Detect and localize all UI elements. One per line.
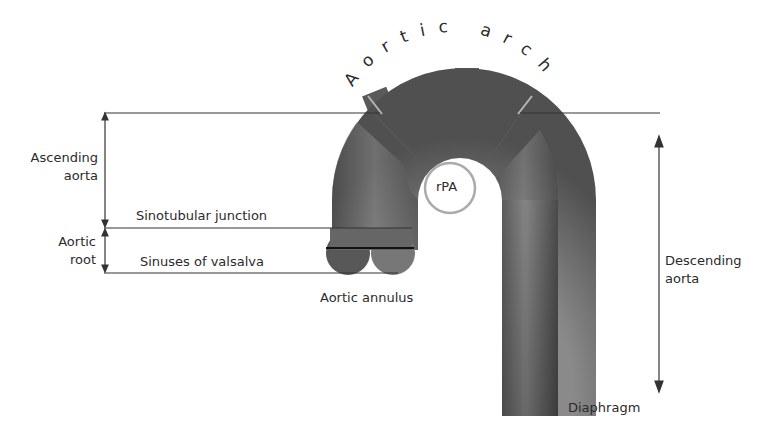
sinuses-of-valsalva-shape — [326, 228, 415, 275]
descending-aorta-arrow — [655, 136, 663, 392]
aorta-diagram: Aortic arch — [0, 0, 766, 438]
label-aortic-root: Aortic root — [20, 233, 96, 269]
descending-line1: Descending — [665, 252, 742, 270]
ascending-line2: aorta — [20, 167, 98, 185]
descending-line2: aorta — [665, 270, 742, 288]
ascending-aorta-arrow — [102, 113, 108, 227]
label-sinotubular-junction: Sinotubular junction — [136, 207, 267, 225]
aortic-root-arrow — [102, 229, 108, 272]
label-aortic-annulus: Aortic annulus — [320, 289, 413, 307]
label-diaphragm: Diaphragm — [568, 399, 640, 417]
label-rpa: rPA — [436, 178, 457, 196]
label-descending-aorta: Descending aorta — [665, 252, 742, 288]
label-ascending-aorta: Ascending aorta — [20, 149, 98, 185]
aortic-root-line2: root — [20, 251, 96, 269]
ascending-line1: Ascending — [20, 149, 98, 167]
label-sinuses-of-valsalva: Sinuses of valsalva — [140, 253, 264, 271]
aortic-root-line1: Aortic — [20, 233, 96, 251]
